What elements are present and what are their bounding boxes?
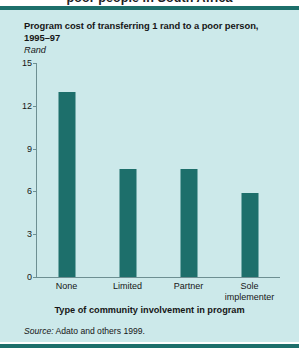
y-tick-label: 3 <box>27 229 32 239</box>
y-tick-label: 6 <box>27 186 32 196</box>
clipped-page-heading: poor people in South Africa <box>0 0 299 5</box>
source-note: Source: Adato and others 1999. <box>24 326 145 336</box>
y-tick-mark <box>33 277 36 278</box>
y-tick-label: 12 <box>22 101 32 111</box>
y-tick-label: 15 <box>22 58 32 68</box>
x-axis-line <box>36 277 280 278</box>
x-tick-label-line: Limited <box>113 281 142 292</box>
bar <box>58 92 75 277</box>
y-tick-label: 0 <box>27 272 32 282</box>
x-tick-label-line: Sole <box>225 281 275 292</box>
y-axis-unit-label: Rand <box>24 45 46 55</box>
bar <box>180 169 197 277</box>
bar <box>241 193 258 277</box>
x-tick-label-line: implementer <box>225 292 275 303</box>
bar-series <box>36 63 280 277</box>
x-axis-tick-labels: NoneLimitedPartnerSoleimplementer <box>36 281 280 307</box>
chart-title: Program cost of transferring 1 rand to a… <box>24 20 280 43</box>
y-tick-label: 9 <box>27 144 32 154</box>
bottom-rule <box>0 344 299 348</box>
x-tick-label: Soleimplementer <box>225 281 275 303</box>
x-tick-label: Limited <box>113 281 142 292</box>
plot-area: 03691215 <box>36 60 280 278</box>
source-label: Source: <box>24 326 54 336</box>
source-text: Adato and others 1999. <box>56 326 145 336</box>
figure-container: poor people in South Africa Program cost… <box>0 0 299 350</box>
x-tick-label-line: None <box>56 281 78 292</box>
x-tick-label: Partner <box>174 281 204 292</box>
bar <box>119 169 136 277</box>
x-axis-title: Type of community involvement in program <box>0 305 299 315</box>
x-tick-label: None <box>56 281 78 292</box>
x-tick-label-line: Partner <box>174 281 204 292</box>
